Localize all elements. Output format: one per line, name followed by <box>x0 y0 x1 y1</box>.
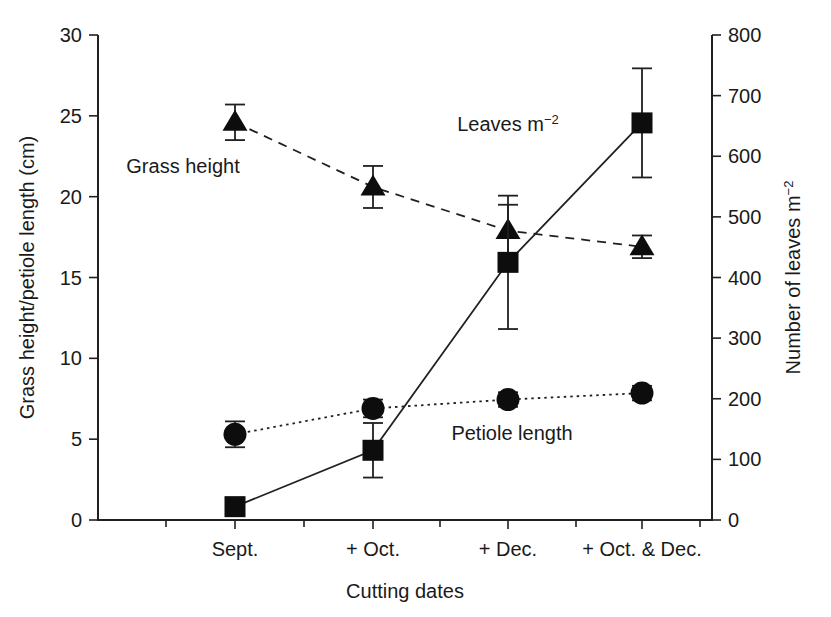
y-axis-left-title: Grass height/petiole length (cm) <box>16 136 38 419</box>
data-point-triangle <box>223 110 248 131</box>
left-axis-tick-label: 10 <box>60 347 82 369</box>
data-point-circle <box>497 388 520 411</box>
right-axis-tick-label: 400 <box>728 267 761 289</box>
data-point-triangle <box>630 234 655 255</box>
right-axis-tick-label: 500 <box>728 206 761 228</box>
x-axis-tick-label: + Dec. <box>479 538 537 560</box>
chart-figure: 0510152025300100200300400500600700800Sep… <box>0 0 831 617</box>
left-axis-tick-label: 25 <box>60 105 82 127</box>
right-axis-tick-label: 200 <box>728 388 761 410</box>
series-line-triangle <box>235 122 642 246</box>
data-point-circle <box>224 423 247 446</box>
y-axis-right-title: Number of leaves m−2 <box>781 181 805 375</box>
data-point-square <box>498 252 519 273</box>
right-axis-tick-label: 0 <box>728 509 739 531</box>
right-axis-tick-label: 600 <box>728 145 761 167</box>
left-axis-tick-label: 5 <box>71 428 82 450</box>
right-axis-tick-label: 700 <box>728 85 761 107</box>
chart-series <box>223 68 655 517</box>
series-annotation-label: Petiole length <box>451 422 572 444</box>
x-axis-title: Cutting dates <box>346 580 464 602</box>
data-point-square <box>632 112 653 133</box>
x-axis-tick-label: + Oct. & Dec. <box>582 538 701 560</box>
right-axis-tick-label: 300 <box>728 327 761 349</box>
x-axis-tick-label: Sept. <box>212 538 259 560</box>
series-line-circle <box>235 393 642 434</box>
data-point-square <box>225 496 246 517</box>
data-point-square <box>363 440 384 461</box>
data-point-triangle <box>361 174 386 195</box>
left-axis-tick-label: 20 <box>60 186 82 208</box>
series-annotation-label: Grass height <box>126 155 240 177</box>
series-annotation-label: Leaves m−2 <box>457 112 559 136</box>
left-axis-tick-label: 30 <box>60 24 82 46</box>
left-axis-tick-label: 0 <box>71 509 82 531</box>
chart-axes: 0510152025300100200300400500600700800Sep… <box>16 24 804 602</box>
right-axis-tick-label: 100 <box>728 448 761 470</box>
line-chart-svg: 0510152025300100200300400500600700800Sep… <box>0 0 831 617</box>
data-point-circle <box>631 382 654 405</box>
data-point-circle <box>362 397 385 420</box>
right-axis-tick-label: 800 <box>728 24 761 46</box>
axis-frame <box>98 35 712 520</box>
x-axis-tick-label: + Oct. <box>346 538 400 560</box>
series-line-square <box>235 123 642 507</box>
left-axis-tick-label: 15 <box>60 267 82 289</box>
